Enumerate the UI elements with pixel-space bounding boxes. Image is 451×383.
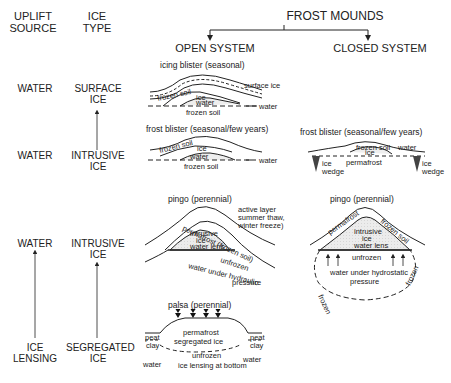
svg-text:water: water xyxy=(195,98,215,107)
svg-text:water: water xyxy=(142,360,162,369)
svg-text:pressure: pressure xyxy=(232,278,261,287)
frost-blister-open-title: frost blister (seasonal/few years) xyxy=(146,124,269,134)
frost-mounds-tree-connector xyxy=(210,25,368,38)
icing-blister-title: icing blister (seasonal) xyxy=(160,60,245,70)
svg-text:water: water xyxy=(258,102,278,111)
svg-text:frozen soil: frozen soil xyxy=(184,162,219,171)
pingo-open-diagram: pingo (perennial) active layer summer th… xyxy=(145,194,285,287)
svg-text:segregated ice: segregated ice xyxy=(174,337,223,346)
tree-icons xyxy=(175,309,221,318)
svg-text:ice: ice xyxy=(365,148,375,157)
svg-text:water: water xyxy=(397,143,417,152)
palsa-diagram: palsa (perennial) peat clay permafrost s… xyxy=(142,300,266,370)
column-arrows xyxy=(35,112,97,338)
svg-text:clay: clay xyxy=(250,341,264,350)
svg-text:permafrost: permafrost xyxy=(183,328,220,337)
svg-text:permafrost: permafrost xyxy=(346,158,383,167)
svg-text:water lens: water lens xyxy=(353,241,388,250)
svg-text:unfrozen: unfrozen xyxy=(352,253,381,262)
svg-text:winter freeze): winter freeze) xyxy=(237,221,284,230)
frost-blister-closed-title: frost blister (seasonal/few years) xyxy=(300,127,423,137)
frost-blister-closed-diagram: frost blister (seasonal/few years) froze… xyxy=(300,127,444,176)
svg-text:pressure: pressure xyxy=(350,277,379,286)
svg-text:water lens: water lens xyxy=(189,242,224,251)
svg-text:frozen soil: frozen soil xyxy=(157,87,193,103)
svg-text:wedge: wedge xyxy=(321,167,344,176)
svg-text:frozen soil: frozen soil xyxy=(186,108,221,117)
svg-text:water: water xyxy=(189,152,209,161)
svg-text:frozen soil: frozen soil xyxy=(158,138,194,155)
pingo-closed-title: pingo (perennial) xyxy=(330,194,394,204)
svg-text:water: water xyxy=(258,156,278,165)
frost-mounds-diagram: icing blister (seasonal) surface ice fro… xyxy=(0,0,451,383)
svg-text:wedge: wedge xyxy=(421,167,444,176)
frost-blister-open-diagram: frost blister (seasonal/few years) froze… xyxy=(146,124,278,171)
svg-text:clay: clay xyxy=(146,341,160,350)
pingo-closed-diagram: pingo (perennial) permafrost frozen soil… xyxy=(310,194,425,316)
icing-blister-diagram: icing blister (seasonal) surface ice fro… xyxy=(148,60,280,117)
svg-text:ice lensing at bottom: ice lensing at bottom xyxy=(178,361,247,370)
svg-text:surface ice: surface ice xyxy=(244,81,280,90)
palsa-title: palsa (perennial) xyxy=(168,300,231,310)
svg-text:frozen: frozen xyxy=(316,293,333,316)
svg-text:unfrozen: unfrozen xyxy=(192,351,221,360)
svg-text:water under hydrostatic: water under hydrostatic xyxy=(329,268,408,277)
pingo-open-title: pingo (perennial) xyxy=(168,194,232,204)
